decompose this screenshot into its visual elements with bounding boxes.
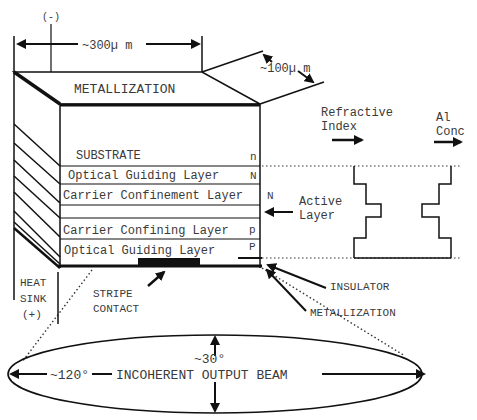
side-face [14,72,60,268]
layer-optical-guiding-n: Optical Guiding Layer [68,169,219,183]
layer-carrier-confinement: Carrier Confinement Layer [63,189,243,203]
layer-optical-guiding-p-type: P [249,241,256,253]
stripe-contact-label-1: STRIPE [93,288,133,300]
output-beam: ~30° ~120° INCOHERENT OUTPUT BEAM [8,335,424,413]
top-face: METALLIZATION [14,72,260,105]
width-label: ~300µ m [82,39,132,53]
profile-headers: Refractive Index Al Conc [321,106,465,142]
bottom-metallization-label: METALLIZATION [310,307,396,319]
insulator-annotation: INSULATOR [268,265,390,293]
vertical-angle-label: ~30° [194,352,225,367]
active-layer-label-1: Active [299,195,342,209]
stripe-contact-annotation: STRIPE CONTACT [93,272,164,315]
active-layer-annotation: Active Layer [266,195,342,223]
negative-terminal-label: (-) [42,12,60,23]
bottom-metallization-annotation: METALLIZATION [267,270,396,319]
horizontal-angle-label: ~120° [50,368,89,383]
refractive-index-label-2: Index [321,120,357,134]
profile-curves [354,166,451,258]
heterostructure-diagram: ~300µ m (-) METALLIZATION ~100µ m [0,0,477,420]
stripe-contact-arrow-icon [148,272,164,286]
layer-optical-guiding-n-type: N [250,170,257,182]
width-dimension: ~300µ m [14,36,202,72]
insulator-label: INSULATOR [330,281,390,293]
active-layer-label-2: Layer [299,209,335,223]
al-conc-label-1: Al [436,111,450,125]
layer-carrier-confining-type: p [249,224,256,236]
layer-substrate: SUBSTRATE [76,149,141,163]
stripe-contact-bar [138,258,200,266]
al-conc-label-2: Conc [436,125,465,139]
top-metallization-label: METALLIZATION [74,82,175,97]
refractive-index-label-1: Refractive [321,106,393,120]
layer-carrier-confining: Carrier Confining Layer [63,224,229,238]
depth-label: ~100µ m [260,62,310,76]
layer-substrate-type: n [250,151,257,163]
layer-optical-guiding-p: Optical Guiding Layer [64,244,215,258]
beam-label: INCOHERENT OUTPUT BEAM [116,368,288,383]
heat-sink-annotation: HEAT SINK (+) [14,238,58,324]
stripe-contact-label-2: CONTACT [93,303,140,315]
heat-sink-label-2: SINK [20,293,47,305]
front-face: SUBSTRATE n Optical Guiding Layer N Carr… [58,104,274,268]
metallization-arrow-icon [267,270,306,311]
heat-sink-label-1: HEAT [20,277,47,289]
layer-carrier-confinement-type: N [267,190,274,202]
heat-sink-label-3: (+) [22,309,42,321]
